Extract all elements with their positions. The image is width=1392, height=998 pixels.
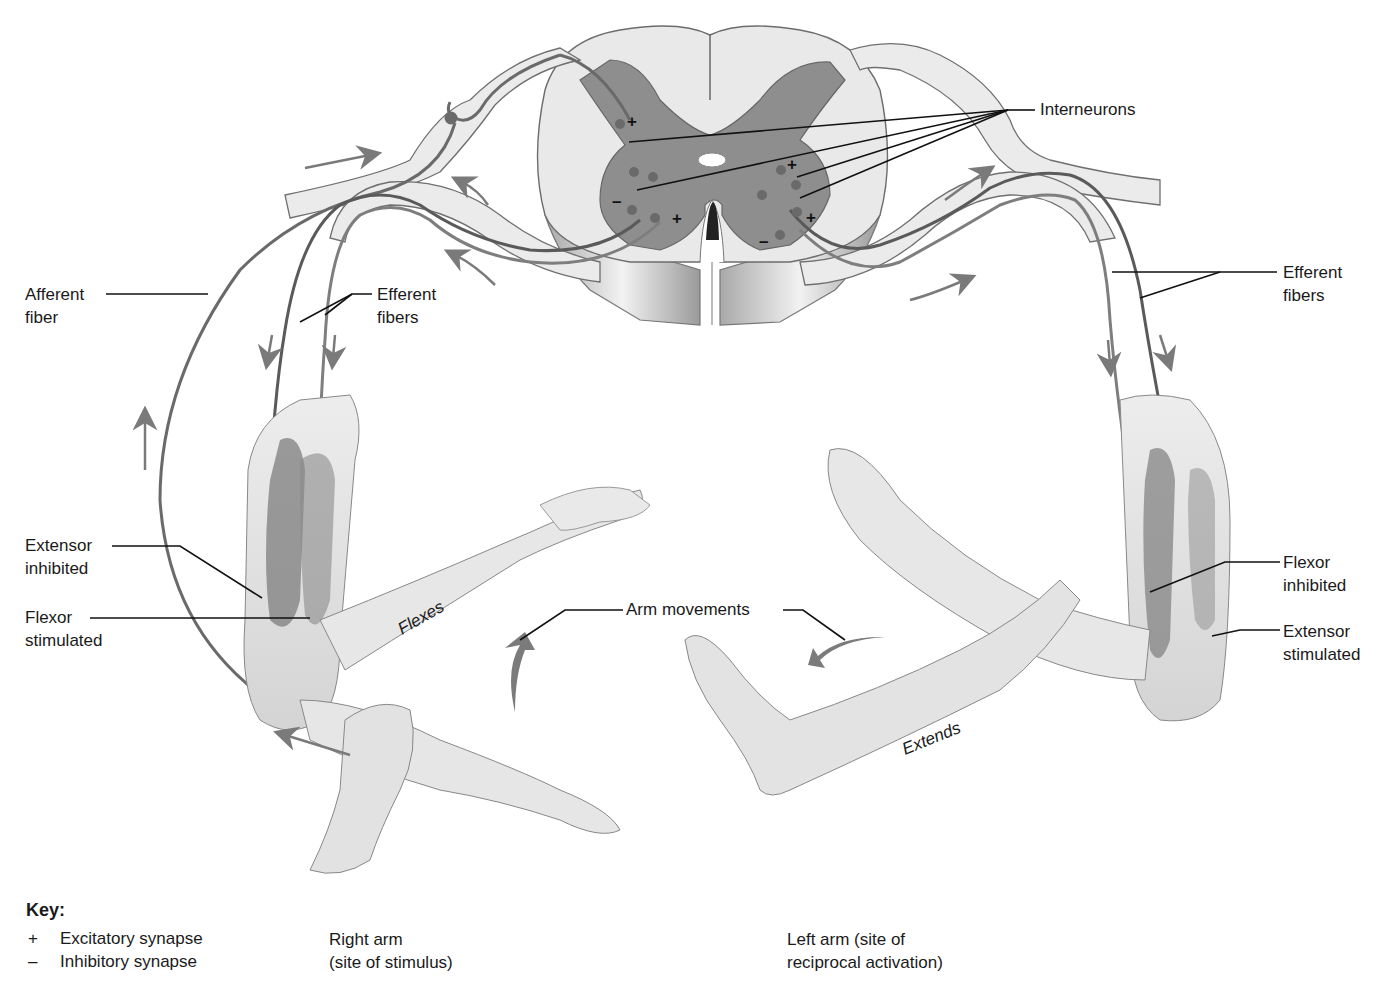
afferent-fiber-label: Afferent fiber: [25, 283, 84, 329]
flexor-stimulated-line2: stimulated: [25, 629, 102, 652]
arm-movements-label: Arm movements: [626, 598, 750, 621]
efferent-right-line2: fibers: [1283, 284, 1342, 307]
efferent-fibers-right-label: Efferent fibers: [1283, 261, 1342, 307]
extensor-stimulated-line2: stimulated: [1283, 643, 1360, 666]
plus-icon: +: [28, 927, 60, 950]
svg-text:+: +: [806, 208, 816, 227]
crossed-extensor-reflex-diagram: + – + + + –: [0, 0, 1392, 998]
right-arm-caption-line2: (site of stimulus): [329, 951, 453, 974]
efferent-left-line1: Efferent: [377, 283, 436, 306]
left-arm-caption: Left arm (site of reciprocal activation): [787, 928, 943, 974]
flexor-inhibited-line2: inhibited: [1283, 574, 1346, 597]
extensor-inhibited-label: Extensor inhibited: [25, 534, 92, 580]
right-arm-illustration: [244, 395, 650, 873]
right-arm-caption-line1: Right arm: [329, 928, 453, 951]
interneurons-text: Interneurons: [1040, 98, 1135, 121]
key-item-text: Inhibitory synapse: [60, 952, 197, 971]
key-item-text: Excitatory synapse: [60, 929, 203, 948]
left-arm-caption-line2: reciprocal activation): [787, 951, 943, 974]
efferent-left-line2: fibers: [377, 306, 436, 329]
afferent-fiber-line2: fiber: [25, 306, 84, 329]
minus-icon: –: [28, 950, 60, 973]
flexor-stimulated-line1: Flexor: [25, 606, 102, 629]
afferent-fiber-line1: Afferent: [25, 283, 84, 306]
extensor-stimulated-label: Extensor stimulated: [1283, 620, 1360, 666]
flexor-stimulated-label: Flexor stimulated: [25, 606, 102, 652]
extensor-stimulated-line1: Extensor: [1283, 620, 1360, 643]
svg-text:+: +: [672, 209, 682, 228]
extensor-inhibited-line1: Extensor: [25, 534, 92, 557]
key-item-excitatory: +Excitatory synapse: [28, 927, 203, 950]
extensor-inhibited-line2: inhibited: [25, 557, 92, 580]
flexor-inhibited-line1: Flexor: [1283, 551, 1346, 574]
interneurons-label: Interneurons: [1040, 98, 1135, 121]
key-item-inhibitory: –Inhibitory synapse: [28, 950, 197, 973]
svg-text:+: +: [627, 112, 637, 131]
svg-text:–: –: [759, 232, 768, 251]
svg-text:–: –: [612, 192, 621, 211]
flexor-inhibited-label: Flexor inhibited: [1283, 551, 1346, 597]
arm-movements-text: Arm movements: [626, 598, 750, 621]
left-arm-caption-line1: Left arm (site of: [787, 928, 943, 951]
efferent-right-line1: Efferent: [1283, 261, 1342, 284]
right-arm-caption: Right arm (site of stimulus): [329, 928, 453, 974]
key-title: Key:: [26, 900, 65, 921]
efferent-fibers-left-label: Efferent fibers: [377, 283, 436, 329]
